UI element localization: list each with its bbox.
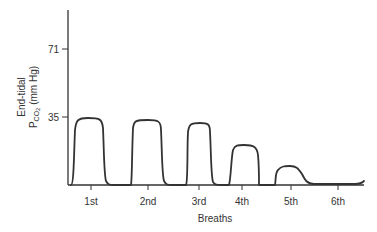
x-tick-label-1st: 1st <box>84 196 98 207</box>
x-tick-label-5th: 5th <box>284 196 298 207</box>
x-tick-label-4th: 4th <box>235 196 249 207</box>
y-tick-label-71: 71 <box>48 44 60 55</box>
x-tick-label-2nd: 2nd <box>140 196 157 207</box>
y-tick-label-35: 35 <box>48 112 60 123</box>
y-axis-title-line2-group: PCO2 (mm Hg) <box>28 66 41 128</box>
x-tick-label-6th: 6th <box>331 196 345 207</box>
x-axis-title: Breaths <box>198 213 232 224</box>
x-tick-label-3rd: 3rd <box>192 196 206 207</box>
capnogram-chart: 71 35 1st 2nd 3rd 4th 5th 6th Breaths En… <box>0 0 377 232</box>
y-axis-title-line2: PCO2 (mm Hg) <box>28 66 41 128</box>
y-axis-title: End-tidal <box>16 77 27 116</box>
y-axis-title-line1: End-tidal <box>16 77 27 116</box>
capnogram-waveform <box>71 118 364 185</box>
